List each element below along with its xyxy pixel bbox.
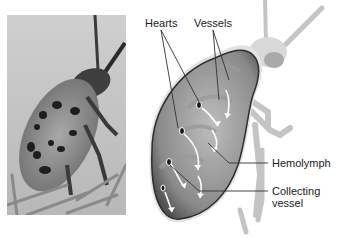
label-hemolymph: Hemolymph bbox=[272, 157, 331, 169]
label-collecting-vessel: Collecting vessel bbox=[272, 185, 320, 209]
label-collecting-line2: vessel bbox=[272, 197, 320, 209]
label-collecting-line1: Collecting bbox=[272, 185, 320, 197]
label-vessels: Vessels bbox=[194, 17, 232, 29]
beetle-body-cutaway bbox=[152, 50, 259, 219]
label-hearts: Hearts bbox=[145, 17, 177, 29]
beetle-eye bbox=[264, 52, 284, 68]
